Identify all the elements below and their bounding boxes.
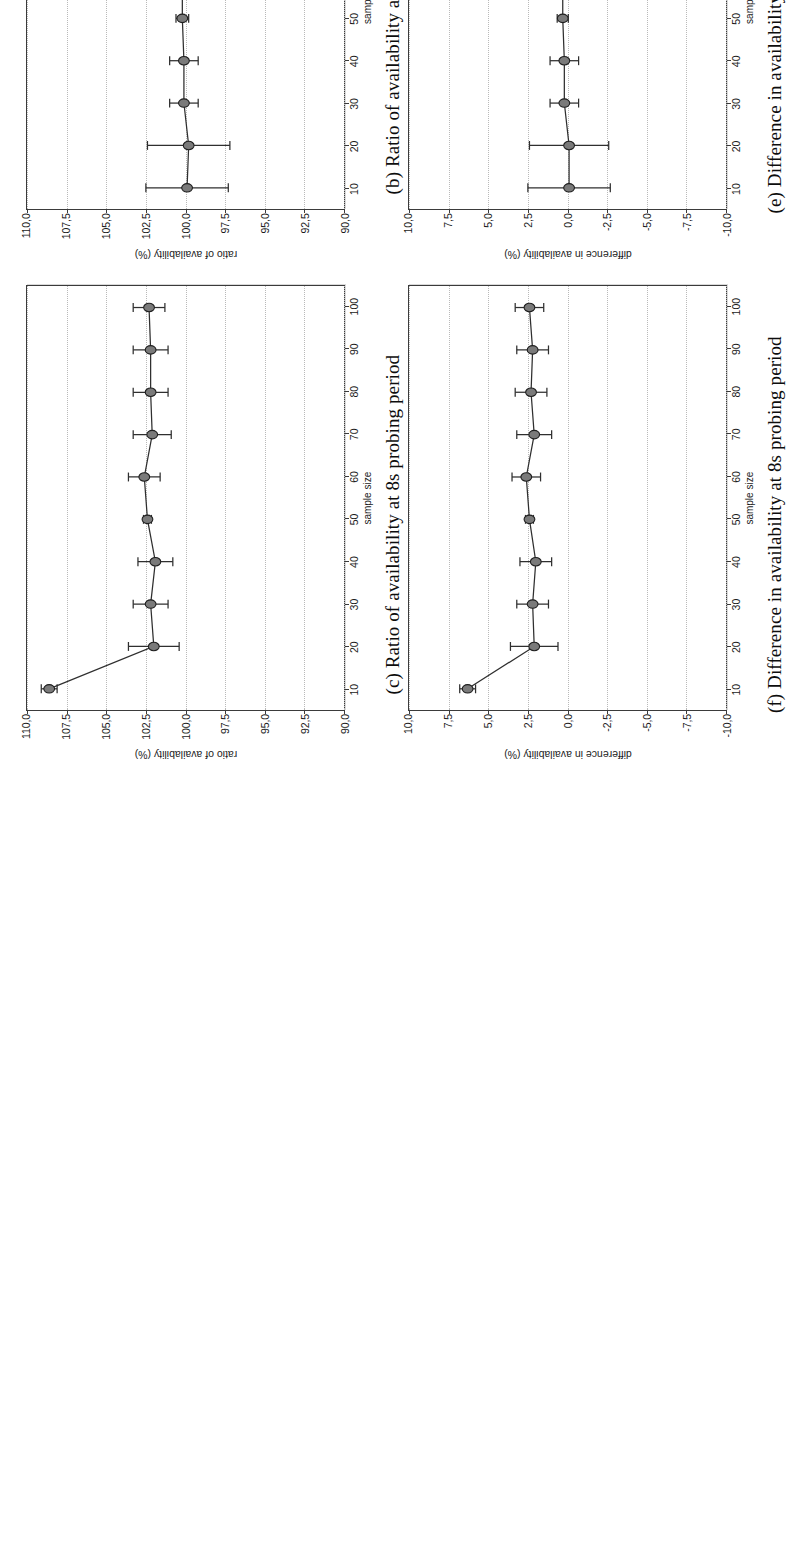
y-tick-mark [146, 710, 147, 714]
y-tick-label: -2,5 [601, 714, 613, 732]
y-tick-mark [449, 710, 450, 714]
y-tick-label: 105,0 [100, 714, 112, 740]
y-axis-ticks-f: 10,07,55,02,50,0-2,5-5,0-7,5-10,0 [408, 711, 727, 747]
figure-panel-c: ratio of availability (%)110,0107,5105,0… [26, 285, 404, 764]
data-point-marker [145, 388, 156, 396]
y-tick-label: 95,0 [259, 213, 271, 233]
data-series-e [409, 0, 726, 209]
data-point-marker [177, 14, 188, 22]
y-tick-label: 92,5 [299, 213, 311, 233]
series-line [181, 0, 189, 188]
y-tick-mark [528, 710, 529, 714]
y-axis-label-text: ratio of availability (%) [134, 750, 237, 762]
x-axis-ticks-b: 102030405060708090100 [345, 0, 365, 210]
y-tick-label: -5,0 [641, 213, 653, 231]
y-tick-mark [106, 710, 107, 714]
y-axis-ticks-c: 110,0107,5105,0102,5100,097,595,092,590,… [26, 711, 345, 747]
y-tick-mark [647, 710, 648, 714]
y-tick-mark [27, 710, 28, 714]
y-tick-label: 2,5 [522, 213, 534, 227]
y-tick-label: 5,0 [482, 213, 494, 227]
y-tick-mark [146, 209, 147, 213]
x-tick-label: 70 [348, 428, 360, 440]
series-line [563, 0, 569, 188]
x-tick-label: 10 [348, 684, 360, 696]
data-point-marker [147, 430, 158, 438]
scanned-figure-page: ratio of availability (%)110,0107,5105,0… [0, 0, 810, 810]
figure-panel-e: difference in availability (%)10,07,55,0… [408, 0, 786, 263]
plot-area-f: difference in availability (%)10,07,55,0… [408, 285, 727, 764]
y-tick-label: 7,5 [442, 213, 454, 227]
x-tick-label: 10 [730, 684, 742, 696]
y-tick-mark [607, 710, 608, 714]
y-tick-label: 0,0 [562, 714, 574, 728]
data-point-marker [521, 473, 532, 481]
y-tick-mark [265, 209, 266, 213]
y-axis-label-b: ratio of availability (%) [26, 246, 345, 263]
figure-panel-b: ratio of availability (%)110,0107,5105,0… [26, 0, 404, 263]
y-tick-mark [686, 710, 687, 714]
figure-panel-f: difference in availability (%)10,07,55,0… [408, 285, 786, 764]
scanned-page-rotation-wrapper: ratio of availability (%)110,0107,5105,0… [0, 0, 810, 810]
y-tick-label: 10,0 [402, 213, 414, 233]
x-tick-label: 50 [348, 514, 360, 526]
y-tick-mark [67, 710, 68, 714]
data-point-marker [182, 184, 193, 192]
y-tick-mark [304, 209, 305, 213]
data-point-marker [564, 184, 575, 192]
data-series-c [27, 286, 344, 710]
data-point-marker [139, 473, 150, 481]
x-tick-label: 30 [348, 599, 360, 611]
y-tick-label: 102,5 [140, 714, 152, 740]
y-tick-mark [186, 209, 187, 213]
data-point-marker [529, 642, 540, 650]
axes-box-c [26, 285, 345, 711]
x-tick-label: 20 [730, 641, 742, 653]
x-tick-label: 50 [730, 13, 742, 25]
data-series-b [27, 0, 344, 209]
x-tick-label: 30 [730, 98, 742, 110]
y-tick-mark [225, 710, 226, 714]
y-tick-label: 100,0 [180, 213, 192, 239]
y-axis-label-text: ratio of availability (%) [134, 249, 237, 261]
data-point-marker [524, 515, 535, 523]
y-tick-mark [106, 209, 107, 213]
y-tick-label: -5,0 [641, 714, 653, 732]
y-tick-mark [568, 710, 569, 714]
y-tick-mark [449, 209, 450, 213]
y-tick-label: -7,5 [681, 213, 693, 231]
y-axis-ticks-b: 110,0107,5105,0102,5100,097,595,092,590,… [26, 210, 345, 246]
y-tick-mark [568, 209, 569, 213]
data-point-marker [527, 346, 538, 354]
data-point-marker [44, 685, 55, 693]
y-tick-label: 100,0 [180, 714, 192, 740]
data-point-marker [179, 99, 190, 107]
y-tick-mark [409, 710, 410, 714]
plot-area-e: difference in availability (%)10,07,55,0… [408, 0, 727, 263]
y-tick-mark [607, 209, 608, 213]
data-point-marker [529, 430, 540, 438]
y-axis-label-e: difference in availability (%) [408, 246, 727, 263]
axes-box-e [408, 0, 727, 210]
data-point-marker [557, 14, 568, 22]
data-point-marker [145, 346, 156, 354]
data-point-marker [524, 303, 535, 311]
y-tick-mark [186, 710, 187, 714]
y-tick-mark [488, 710, 489, 714]
x-axis-ticks-c: 102030405060708090100 [345, 285, 365, 711]
x-tick-label: 60 [730, 471, 742, 483]
data-point-marker [559, 99, 570, 107]
panel-caption-f: (f) Difference in availability at 8s pro… [764, 285, 786, 764]
y-tick-label: 105,0 [100, 213, 112, 239]
x-tick-label: 20 [348, 141, 360, 153]
x-tick-label: 50 [348, 13, 360, 25]
y-axis-ticks-e: 10,07,55,02,50,0-2,5-5,0-7,5-10,0 [408, 210, 727, 246]
panel-caption-e: (e) Difference in availability at 6s pro… [764, 0, 786, 263]
x-tick-label: 50 [730, 514, 742, 526]
x-tick-label: 80 [730, 386, 742, 398]
y-tick-mark [528, 209, 529, 213]
y-tick-mark [27, 209, 28, 213]
y-axis-label-text: difference in availability (%) [504, 750, 632, 762]
x-tick-label: 20 [348, 641, 360, 653]
y-tick-label: 97,5 [219, 213, 231, 233]
